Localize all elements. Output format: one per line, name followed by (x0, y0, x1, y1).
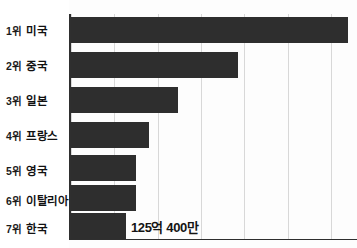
rank-label-5: 5위 (6, 163, 21, 178)
row-label-5: 5위 영국 (0, 157, 66, 183)
bar-7-korea (71, 213, 126, 239)
row-label-3: 3위 일본 (0, 87, 66, 113)
gridline-7 (331, 14, 332, 239)
row-label-7: 7위 한국 (0, 215, 66, 241)
rank-label-2: 2위 (6, 58, 21, 73)
bar-chart: 1위 미국 2위 중국 3위 일본 4위 프랑스 5위 영국 6위 이탈리아 7… (0, 0, 357, 248)
country-label-2: 중국 (26, 57, 47, 73)
rank-label-3: 3위 (6, 93, 21, 108)
value-annotation-korea: 125억 400만 (131, 217, 198, 236)
bar-3-japan (71, 87, 178, 113)
country-label-6: 이탈리아 (26, 192, 68, 208)
category-label-column: 1위 미국 2위 중국 3위 일본 4위 프랑스 5위 영국 6위 이탈리아 7… (0, 0, 69, 248)
row-label-1: 1위 미국 (0, 17, 66, 43)
rank-label-6: 6위 (6, 193, 21, 208)
bar-1-usa (71, 17, 348, 43)
country-label-5: 영국 (26, 162, 47, 178)
rank-label-4: 4위 (6, 128, 21, 143)
bar-5-uk (71, 155, 136, 181)
gridline-4 (201, 14, 202, 239)
rank-label-1: 1위 (6, 23, 21, 38)
gridline-3 (158, 14, 159, 239)
gridline-6 (288, 14, 289, 239)
gridline-5 (244, 14, 245, 239)
row-label-6: 6위 이탈리아 (0, 187, 66, 213)
row-label-4: 4위 프랑스 (0, 122, 66, 148)
row-label-2: 2위 중국 (0, 52, 66, 78)
country-label-1: 미국 (26, 22, 47, 38)
country-label-4: 프랑스 (26, 127, 58, 143)
plot-area: 125억 400만 (69, 0, 357, 248)
bar-6-italy (71, 185, 136, 211)
bar-4-france (71, 122, 149, 148)
bar-2-china (71, 52, 238, 78)
country-label-7: 한국 (26, 220, 47, 236)
country-label-3: 일본 (26, 92, 47, 108)
rank-label-7: 7위 (6, 221, 21, 236)
